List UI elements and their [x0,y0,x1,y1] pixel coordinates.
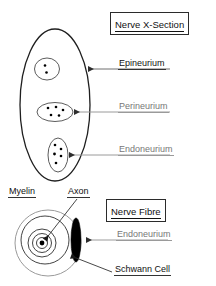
axon-dot [47,107,50,110]
axon-dot [55,106,58,109]
axon-dot [58,114,61,117]
title-box-nerve-x-section: Nerve X-Section [110,12,189,35]
label-myelin: Myelin [8,186,36,198]
label-axon: Axon [67,186,90,198]
schwann-cell-leader [71,256,112,272]
fascicle-bottom [48,138,68,172]
label-schwann-cell: Schwann Cell [114,264,171,276]
nerve-diagram-svg [0,0,216,286]
axon-dot [54,144,57,147]
perineurium-outline-middle [37,103,73,122]
axon-dot [55,162,58,165]
axon-dot [44,64,47,67]
perineurium-outline-bottom [48,138,68,172]
axon-core [40,241,45,246]
schwann-cell-nucleus [71,218,81,262]
axon-dot [60,155,63,158]
label-endoneurium-top: Endoneurium [118,144,174,156]
label-perineurium: Perineurium [118,101,169,113]
axon-dot [45,71,48,74]
label-endoneurium-bottom: Endoneurium [116,229,172,241]
title-nerve-x-section: Nerve X-Section [115,19,184,32]
axon-dot [62,109,65,112]
perineurium-outline-top [35,58,60,80]
label-epineurium: Epineurium [118,58,166,70]
fascicle-top [35,58,60,80]
axon-dot [50,114,53,117]
title-box-nerve-fibre: Nerve Fibre [106,199,166,222]
epineurium-outline [20,29,90,181]
fascicle-middle [37,103,73,122]
figure-canvas: Nerve X-Section Nerve Fibre Epineurium P… [0,0,216,286]
title-nerve-fibre: Nerve Fibre [111,206,161,219]
axon-dot [53,153,56,156]
axon-dot [60,148,63,151]
